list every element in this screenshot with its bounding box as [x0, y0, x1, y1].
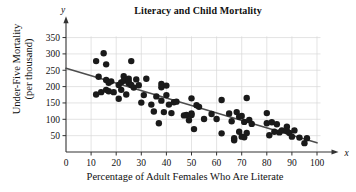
data-point: [244, 130, 250, 136]
y-tick-label: 100: [46, 115, 61, 125]
data-point: [201, 116, 207, 122]
data-point: [151, 108, 157, 114]
data-point: [100, 50, 106, 56]
x-tick-label: 50: [187, 158, 197, 168]
data-point: [188, 95, 194, 101]
data-point: [244, 95, 250, 101]
data-point: [239, 113, 245, 119]
data-point: [156, 120, 162, 126]
data-point: [274, 121, 280, 127]
x-tick-label: 10: [86, 158, 96, 168]
data-point: [163, 92, 169, 98]
x-tick-label: 60: [212, 158, 222, 168]
data-point: [196, 104, 202, 110]
x-tick-label: 80: [262, 158, 272, 168]
x-tick-label: 0: [64, 158, 69, 168]
axis-lines: [63, 16, 338, 154]
data-point: [108, 78, 114, 84]
y-tick-label: 200: [46, 82, 61, 92]
data-point: [143, 76, 149, 82]
data-point: [158, 97, 164, 103]
x-tick-label: 30: [137, 158, 147, 168]
y-tick-label: 250: [46, 66, 61, 76]
data-point: [226, 110, 232, 116]
axis-ticks: 0102030405060708090100501001502002503003…: [46, 33, 325, 168]
data-point: [148, 101, 154, 107]
x-tick-label: 90: [287, 158, 297, 168]
data-point: [128, 58, 134, 64]
data-point: [118, 87, 124, 93]
data-point: [116, 95, 122, 101]
data-point: [123, 91, 129, 97]
data-point: [93, 58, 99, 64]
data-point: [249, 121, 255, 127]
data-point: [289, 133, 295, 139]
data-point: [173, 98, 179, 104]
y-tick-label: 300: [46, 49, 61, 59]
data-point: [110, 89, 116, 95]
data-point: [161, 109, 167, 115]
data-point: [133, 76, 139, 82]
data-point: [304, 135, 310, 141]
y-tick-label: 350: [46, 33, 61, 43]
x-tick-label: 100: [310, 158, 325, 168]
x-tick-label: 40: [162, 158, 172, 168]
x-tick-label: 70: [237, 158, 247, 168]
y-variable-label: y: [60, 5, 66, 15]
y-tick-label: 50: [51, 131, 61, 141]
data-point: [296, 134, 302, 140]
data-point: [231, 135, 237, 141]
data-point: [291, 127, 297, 133]
data-point: [168, 110, 174, 116]
data-point: [95, 74, 101, 80]
data-point: [218, 97, 224, 103]
data-point: [141, 92, 147, 98]
data-point: [191, 126, 197, 132]
data-point: [138, 99, 144, 105]
data-point: [136, 82, 142, 88]
data-point: [163, 82, 169, 88]
data-point: [213, 116, 219, 122]
data-point: [208, 111, 214, 117]
data-point: [228, 118, 234, 124]
chart-figure: Literacy and Child Mortality Under-Five …: [0, 0, 356, 192]
data-point: [188, 112, 194, 118]
data-point: [264, 110, 270, 116]
data-point: [153, 93, 159, 99]
data-points: [93, 50, 310, 146]
scatter-plot: 0102030405060708090100501001502002503003…: [0, 0, 356, 192]
data-point: [103, 61, 109, 67]
x-variable-label: x: [344, 148, 350, 158]
y-tick-label: 150: [46, 98, 61, 108]
data-point: [218, 130, 224, 136]
x-tick-label: 20: [111, 158, 121, 168]
